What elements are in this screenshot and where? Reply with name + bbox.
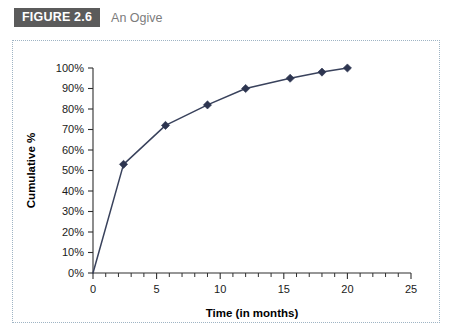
data-point-markers bbox=[119, 64, 351, 169]
svg-text:10: 10 bbox=[214, 283, 226, 295]
svg-text:70%: 70% bbox=[62, 123, 84, 135]
ogive-chart: 0%10%20%30%40%50%60%70%80%90%100% 051015… bbox=[13, 41, 441, 324]
svg-text:15: 15 bbox=[278, 283, 290, 295]
figure-caption: An Ogive bbox=[111, 11, 162, 25]
cumulative-percent-line bbox=[93, 68, 347, 273]
x-axis-ticks: 0510152025 bbox=[90, 273, 417, 295]
svg-text:90%: 90% bbox=[62, 82, 84, 94]
figure-number-badge: FIGURE 2.6 bbox=[14, 8, 100, 27]
svg-text:60%: 60% bbox=[62, 144, 84, 156]
svg-text:30%: 30% bbox=[62, 205, 84, 217]
y-axis-ticks: 0%10%20%30%40%50%60%70%80%90%100% bbox=[56, 62, 93, 279]
svg-text:20%: 20% bbox=[62, 226, 84, 238]
svg-text:0%: 0% bbox=[68, 267, 84, 279]
figure-container: FIGURE 2.6 An Ogive 0%10%20%30%40%50%60%… bbox=[0, 0, 452, 332]
chart-frame: 0%10%20%30%40%50%60%70%80%90%100% 051015… bbox=[12, 40, 440, 323]
svg-text:25: 25 bbox=[405, 283, 417, 295]
svg-text:40%: 40% bbox=[62, 185, 84, 197]
svg-text:100%: 100% bbox=[56, 62, 84, 74]
svg-text:20: 20 bbox=[341, 283, 353, 295]
svg-text:10%: 10% bbox=[62, 246, 84, 258]
svg-text:80%: 80% bbox=[62, 103, 84, 115]
svg-text:0: 0 bbox=[90, 283, 96, 295]
x-axis-title: Time (in months) bbox=[206, 307, 299, 319]
y-axis-title: Cumulative % bbox=[25, 133, 37, 208]
figure-header: FIGURE 2.6 An Ogive bbox=[14, 8, 163, 27]
svg-text:50%: 50% bbox=[62, 164, 84, 176]
svg-text:5: 5 bbox=[154, 283, 160, 295]
